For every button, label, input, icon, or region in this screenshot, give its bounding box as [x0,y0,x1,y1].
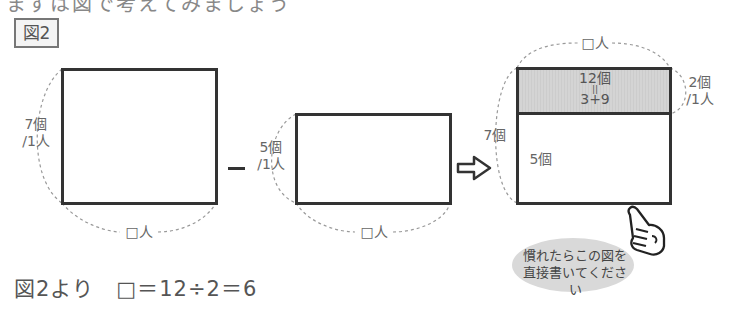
middle-width-label: □人 [356,224,392,241]
right-width-arc-r [612,43,670,68]
middle-rectangle [295,113,452,205]
middle-width-arc-r [393,203,450,232]
hint-line-1: 慣れたらこの図を [520,247,630,264]
diff-unit: /1人 [680,91,720,108]
shaded-label: 12個 || 3+9 [560,72,630,106]
middle-width-arc-l [296,203,355,232]
right-width-label: □人 [578,35,612,52]
hint-text: 慣れたらこの図を 直接書いてください [520,247,630,298]
minus-sign [228,167,245,170]
outer-height-label: 7個 [478,127,512,144]
left-width-label: □人 [121,224,157,241]
middle-height-label: 5個 /1人 [251,139,291,173]
left-width-arc-l [62,203,120,232]
left-height-label: 7個 /1人 [16,116,56,150]
shaded-breakdown: 3+9 [560,93,630,106]
middle-height-value: 5個 [251,139,291,156]
pointing-hand-icon [629,207,664,255]
left-width-arc-r [158,203,216,232]
left-rectangle [61,68,218,205]
middle-height-unit: /1人 [251,156,291,173]
answer-equation: 図2より □＝12÷2＝6 [14,272,257,302]
inner-height-label: 5個 [524,151,558,168]
left-height-unit: /1人 [16,133,56,150]
hint-line-2: 直接書いてください [520,264,630,298]
diff-value: 2個 [680,74,720,91]
diff-label: 2個 /1人 [680,74,720,108]
left-height-value: 7個 [16,116,56,133]
right-width-arc-l [517,43,578,68]
divider-line [516,112,672,115]
arrow-right-icon [458,157,490,179]
